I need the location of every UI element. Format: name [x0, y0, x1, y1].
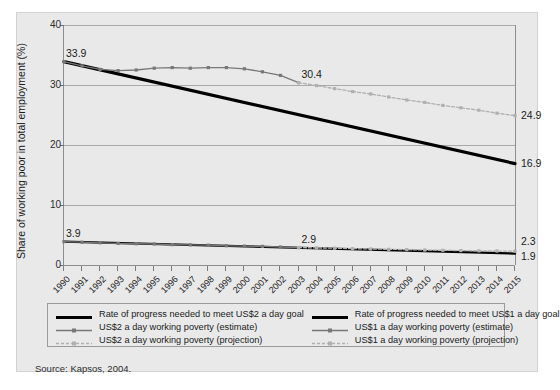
x-tick-mark-2008: [388, 266, 389, 271]
legend-label: Rate of progress needed to meet US$1 a d…: [355, 309, 560, 320]
data-point-marker: [315, 84, 318, 87]
data-point-marker: [369, 92, 372, 95]
data-point-marker: [387, 95, 390, 98]
data-point-marker: [315, 246, 318, 249]
data-point-marker: [153, 67, 156, 70]
data-point-marker: [207, 66, 210, 69]
data-point-marker: [441, 249, 444, 252]
data-point-marker: [297, 81, 300, 84]
x-tick-mark-2007: [370, 266, 371, 271]
data-point-marker: [225, 66, 228, 69]
data-point-marker: [62, 60, 65, 63]
data-point-marker: [405, 248, 408, 251]
y-tick-label-40: 40: [50, 19, 61, 30]
data-point-marker: [261, 245, 264, 248]
data-point-marker: [135, 242, 138, 245]
data-point-marker: [495, 112, 498, 115]
series-2: [297, 81, 517, 117]
x-tick-mark-1999: [225, 266, 226, 271]
x-tick-mark-2010: [424, 266, 425, 271]
x-tick-mark-2013: [478, 266, 479, 271]
x-tick-mark-2014: [496, 266, 497, 271]
data-point-marker: [333, 87, 336, 90]
legend-column-2: Rate of progress needed to meet US$1 a d…: [304, 304, 560, 346]
y-tick-label-0: 0: [55, 259, 61, 270]
legend-label: Rate of progress needed to meet US$2 a d…: [99, 309, 304, 320]
plot-area: 010203040 33.93.930.42.924.916.92.31.9: [63, 25, 516, 265]
annotation-3-9: 3.9: [66, 227, 81, 239]
legend-entry[interactable]: US$2 a day working poverty (projection): [54, 334, 304, 346]
data-point-marker: [351, 247, 354, 250]
legend-label: US$2 a day working poverty (projection): [99, 335, 262, 346]
legend-swatch-thick-black-line: [54, 309, 94, 320]
data-point-marker: [117, 69, 120, 72]
legend-entry[interactable]: US$1 a day working poverty (estimate): [310, 321, 560, 333]
data-point-marker: [80, 241, 83, 244]
annotation-33-9: 33.9: [66, 47, 86, 59]
legend-swatch-light-gray-line-with-markers: [54, 335, 94, 346]
y-tick-label-20: 20: [50, 139, 61, 150]
data-point-marker: [495, 249, 498, 252]
y-axis-title: Share of working poor in total employmen…: [15, 19, 29, 259]
data-point-marker: [279, 74, 282, 77]
data-point-marker: [225, 244, 228, 247]
data-point-marker: [98, 68, 101, 71]
data-point-marker: [62, 240, 65, 243]
figure-container: Share of working poor in total employmen…: [16, 12, 538, 372]
data-point-marker: [387, 248, 390, 251]
legend-entry[interactable]: US$1 a day working poverty (projection): [310, 334, 560, 346]
legend-entry[interactable]: Rate of progress needed to meet US$2 a d…: [54, 308, 304, 320]
x-tick-mark-1990: [63, 266, 64, 271]
chart-legend: Rate of progress needed to meet US$2 a d…: [47, 303, 505, 347]
data-point-marker: [153, 242, 156, 245]
annotation-2-3: 2.3: [521, 235, 536, 247]
data-point-marker: [243, 245, 246, 248]
x-tick-mark-2000: [243, 266, 244, 271]
series-1: [62, 60, 300, 84]
data-point-marker: [423, 248, 426, 251]
x-tick-mark-2005: [334, 266, 335, 271]
x-tick-mark-1997: [189, 266, 190, 271]
data-point-marker: [333, 247, 336, 250]
legend-swatch-light-gray-line-with-markers: [310, 335, 350, 346]
data-point-marker: [297, 246, 300, 249]
y-tick-label-30: 30: [50, 79, 61, 90]
x-tick-mark-1995: [153, 266, 154, 271]
data-point-marker: [135, 68, 138, 71]
data-point-marker: [477, 249, 480, 252]
legend-entry[interactable]: Rate of progress needed to meet US$1 a d…: [310, 308, 560, 320]
x-tick-mark-1998: [207, 266, 208, 271]
data-point-marker: [80, 64, 83, 67]
data-point-marker: [279, 245, 282, 248]
y-tick-label-10: 10: [50, 199, 61, 210]
x-tick-mark-1994: [135, 266, 136, 271]
x-tick-mark-2004: [316, 266, 317, 271]
x-tick-mark-2015: [514, 266, 515, 271]
x-tick-mark-2001: [261, 266, 262, 271]
series-0: [64, 62, 515, 164]
data-point-marker: [98, 241, 101, 244]
data-point-marker: [459, 106, 462, 109]
x-tick-mark-1993: [117, 266, 118, 271]
data-point-marker: [405, 98, 408, 101]
legend-swatch-dark-gray-line-with-markers: [54, 322, 94, 333]
data-point-marker: [459, 249, 462, 252]
annotation-24-9: 24.9: [521, 109, 541, 121]
legend-swatch-dark-gray-line-with-markers: [310, 322, 350, 333]
data-point-marker: [513, 250, 516, 253]
x-tick-mark-2009: [406, 266, 407, 271]
legend-label: US$1 a day working poverty (projection): [355, 335, 518, 346]
data-point-marker: [207, 244, 210, 247]
x-tick-mark-1992: [99, 266, 100, 271]
data-point-marker: [243, 67, 246, 70]
data-point-marker: [441, 104, 444, 107]
legend-swatch-thick-black-line: [310, 309, 350, 320]
x-tick-mark-1991: [81, 266, 82, 271]
legend-entry[interactable]: US$2 a day working poverty (estimate): [54, 321, 304, 333]
x-axis-line: [63, 265, 514, 266]
x-tick-mark-2012: [460, 266, 461, 271]
annotation-30-4: 30.4: [302, 68, 322, 80]
data-point-marker: [171, 243, 174, 246]
annotation-1-9: 1.9: [521, 250, 536, 262]
legend-column-1: Rate of progress needed to meet US$2 a d…: [48, 304, 304, 346]
